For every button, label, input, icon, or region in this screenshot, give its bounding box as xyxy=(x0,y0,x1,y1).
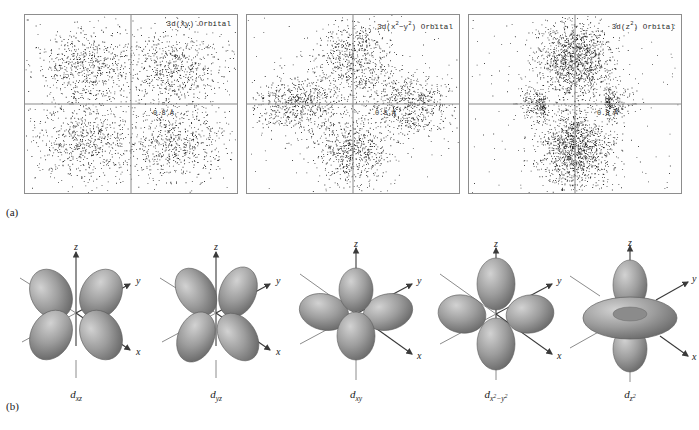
orbital-3d-dxy: z y x xyxy=(286,238,426,388)
axis-tick xyxy=(131,149,132,154)
axis-tick xyxy=(69,104,74,105)
orbital-figure: 3d(xy) Orbital 0.8 Å 3d(x2−y2) Orbital 0… xyxy=(0,0,699,430)
axis-label-y: y xyxy=(416,275,422,286)
orbital-title-3: 3d(z2) Orbital xyxy=(612,20,675,31)
scatter-plot-3d-z2: 3d(z2) Orbital 0.8 Å xyxy=(468,14,682,194)
axis-label-x: x xyxy=(135,346,141,357)
orbital-3d-dx2-y2: z y x xyxy=(426,238,566,388)
axis-label-x: x xyxy=(691,351,697,362)
axis-tick xyxy=(291,104,296,105)
orbital-title-2: 3d(x2−y2) Orbital xyxy=(377,20,453,31)
panel-a-scatter-row: 3d(xy) Orbital 0.8 Å 3d(x2−y2) Orbital 0… xyxy=(0,0,699,200)
axis-tick xyxy=(632,104,637,105)
scale-label-2: 0.8 Å xyxy=(375,109,396,117)
orbital-caption-sub: x2−y2 xyxy=(490,394,508,403)
axis-tick xyxy=(131,53,132,58)
axis-label-z: z xyxy=(353,238,358,249)
axis-label-z: z xyxy=(73,241,78,252)
orbital-3d-dyz: z y x xyxy=(146,238,286,388)
axis-tick xyxy=(513,104,518,105)
orbital-caption-sub: z2 xyxy=(630,394,636,403)
panel-b-orbital-row: z y x xyxy=(0,238,699,430)
orbital-caption-sub: yz xyxy=(216,394,222,403)
horizontal-axis-1 xyxy=(25,104,237,105)
axis-label-z: z xyxy=(627,238,632,248)
horizontal-axis-3 xyxy=(469,104,681,105)
panel-label-b: (b) xyxy=(6,400,19,412)
panel-label-a: (a) xyxy=(6,206,18,218)
lobes-dyz xyxy=(167,260,268,368)
axis-label-x: x xyxy=(275,346,281,357)
lobes-dxy xyxy=(295,268,416,360)
lobes-dz2 xyxy=(583,260,677,372)
orbital-3d-dz2: z y x xyxy=(560,238,699,388)
axis-tick xyxy=(575,149,576,154)
orbital-title-1: 3d(xy) Orbital xyxy=(167,20,231,28)
axis-label-y: y xyxy=(691,273,697,284)
axis-label-y: y xyxy=(275,275,281,286)
orbital-caption-base: d xyxy=(624,388,630,400)
scale-label-3: 0.8 Å xyxy=(597,109,618,117)
orbital-caption-dx2-y2: dx2−y2 xyxy=(426,388,566,403)
axis-label-z: z xyxy=(213,241,218,252)
axis-label-z: z xyxy=(493,238,498,249)
scatter-plot-3d-x2-y2: 3d(x2−y2) Orbital 0.8 Å xyxy=(246,14,460,194)
orbital-3d-dxz: z y x xyxy=(6,238,146,388)
orbital-caption-dz2: dz2 xyxy=(560,388,699,403)
axis-tick xyxy=(410,104,415,105)
orbital-caption-sub: xy xyxy=(355,394,362,403)
axis-tick xyxy=(353,149,354,154)
axis-tick xyxy=(188,104,193,105)
scatter-plot-3d-xy: 3d(xy) Orbital 0.8 Å xyxy=(24,14,238,194)
axis-tick xyxy=(575,53,576,58)
axis-tick xyxy=(353,53,354,58)
orbital-caption-sub: xz xyxy=(76,394,82,403)
axis-label-y: y xyxy=(135,275,141,286)
axis-label-x: x xyxy=(416,350,422,361)
orbital-caption-dxz: dxz xyxy=(6,388,146,403)
scale-label-1: 0.8 Å xyxy=(153,109,174,117)
orbital-caption-dyz: dyz xyxy=(146,388,286,403)
horizontal-axis-2 xyxy=(247,104,459,105)
axes-dyz xyxy=(160,252,270,378)
orbital-caption-dxy: dxy xyxy=(286,388,426,403)
